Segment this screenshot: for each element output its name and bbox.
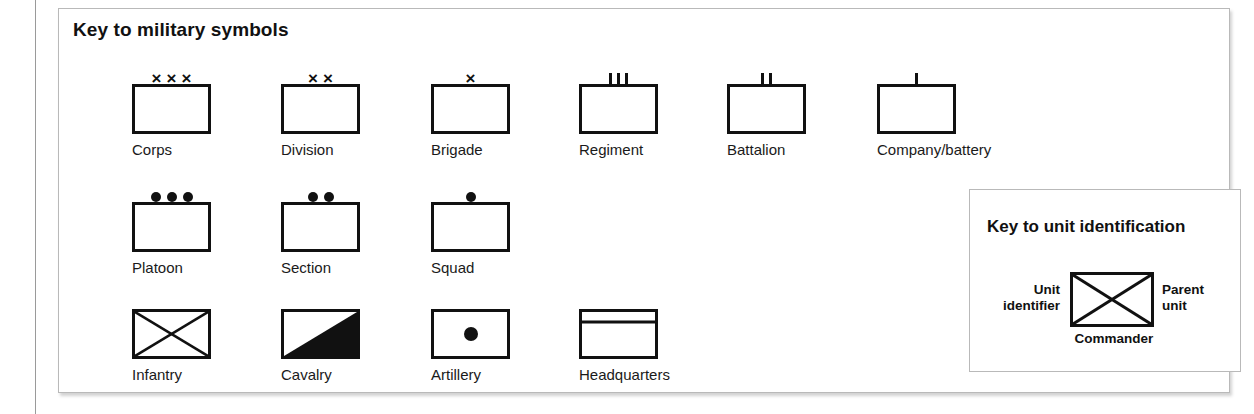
echelon-bar-icon xyxy=(769,73,772,86)
unit-identifier-label-line2: identifier xyxy=(1003,298,1060,313)
symbol-entry: Section xyxy=(281,202,360,276)
echelon-marks xyxy=(284,184,357,205)
symbol-label: Platoon xyxy=(132,260,211,276)
echelon-cross-icon: × xyxy=(167,71,177,86)
echelon-bar-icon xyxy=(625,73,628,86)
echelon-bar-icon xyxy=(609,73,612,86)
echelon-cross-icon: × xyxy=(152,71,162,86)
symbol-box xyxy=(579,84,658,134)
artillery-dot-icon xyxy=(434,312,507,356)
echelon-marks xyxy=(582,66,655,87)
symbol-entry: ××Division xyxy=(281,84,360,158)
symbol-box: ×× xyxy=(281,84,360,134)
symbol-label: Cavalry xyxy=(281,367,360,383)
symbol-label: Squad xyxy=(431,260,510,276)
echelon-marks: ××× xyxy=(135,66,208,87)
symbol-label: Company/battery xyxy=(877,142,991,158)
symbol-entry: Regiment xyxy=(579,84,658,158)
unit-identification-title: Key to unit identification xyxy=(987,217,1185,237)
unit-identifier-label-line1: Unit xyxy=(1034,282,1060,297)
symbol-label: Corps xyxy=(132,142,211,158)
symbol-box xyxy=(132,202,211,252)
echelon-marks: × xyxy=(434,66,507,87)
symbol-entry: Platoon xyxy=(132,202,211,276)
symbol-entry: Artillery xyxy=(431,309,510,383)
commander-label: Commander xyxy=(1066,331,1162,347)
cavalry-diagonal-icon xyxy=(284,312,357,356)
page-margin-rule xyxy=(35,0,36,414)
symbol-entry: Infantry xyxy=(132,309,211,383)
echelon-dot-icon xyxy=(324,192,334,202)
symbol-box xyxy=(877,84,956,134)
echelon-bar-icon xyxy=(617,73,620,86)
symbol-label: Brigade xyxy=(431,142,510,158)
symbol-entry: Battalion xyxy=(727,84,806,158)
infantry-symbol-icon xyxy=(1070,272,1154,327)
symbol-entry: Squad xyxy=(431,202,510,276)
page-title: Key to military symbols xyxy=(73,19,289,41)
echelon-marks: ×× xyxy=(284,66,357,87)
headquarters-band-icon xyxy=(582,312,655,356)
unit-identifier-label: Unit identifier xyxy=(1003,282,1060,314)
symbol-label: Division xyxy=(281,142,360,158)
symbol-box xyxy=(431,202,510,252)
symbol-box xyxy=(727,84,806,134)
echelon-dot-icon xyxy=(466,192,476,202)
echelon-dot-icon xyxy=(167,192,177,202)
symbol-box: ××× xyxy=(132,84,211,134)
echelon-marks xyxy=(880,66,953,87)
parent-unit-label: Parent unit xyxy=(1162,282,1204,314)
symbol-entry: Company/battery xyxy=(877,84,991,158)
echelon-dot-icon xyxy=(151,192,161,202)
infantry-cross-icon xyxy=(135,312,208,356)
symbol-box xyxy=(281,309,360,359)
echelon-marks xyxy=(434,184,507,205)
echelon-cross-icon: × xyxy=(466,71,476,86)
echelon-dot-icon xyxy=(308,192,318,202)
symbol-box: × xyxy=(431,84,510,134)
symbol-entry: ×Brigade xyxy=(431,84,510,158)
parent-unit-label-line1: Parent xyxy=(1162,282,1204,297)
symbol-entry: Headquarters xyxy=(579,309,670,383)
military-symbols-panel: Key to military symbols ×××Corps××Divisi… xyxy=(58,8,1230,393)
symbol-box xyxy=(579,309,658,359)
artillery-dot xyxy=(464,327,478,341)
symbol-label: Infantry xyxy=(132,367,211,383)
symbol-box xyxy=(132,309,211,359)
symbol-label: Artillery xyxy=(431,367,510,383)
symbol-label: Battalion xyxy=(727,142,806,158)
parent-unit-label-line2: unit xyxy=(1162,298,1187,313)
echelon-dot-icon xyxy=(183,192,193,202)
symbol-box xyxy=(431,309,510,359)
symbol-label: Section xyxy=(281,260,360,276)
echelon-marks xyxy=(730,66,803,87)
symbol-entry: Cavalry xyxy=(281,309,360,383)
echelon-marks xyxy=(135,184,208,205)
symbol-label: Headquarters xyxy=(579,367,670,383)
symbol-box xyxy=(281,202,360,252)
unit-identification-panel: Key to unit identification Unit identifi… xyxy=(969,189,1241,372)
symbol-entry: ×××Corps xyxy=(132,84,211,158)
echelon-bar-icon xyxy=(761,73,764,86)
symbol-label: Regiment xyxy=(579,142,658,158)
echelon-cross-icon: × xyxy=(181,71,191,86)
echelon-cross-icon: × xyxy=(323,71,333,86)
echelon-bar-icon xyxy=(915,73,918,86)
echelon-cross-icon: × xyxy=(308,71,318,86)
